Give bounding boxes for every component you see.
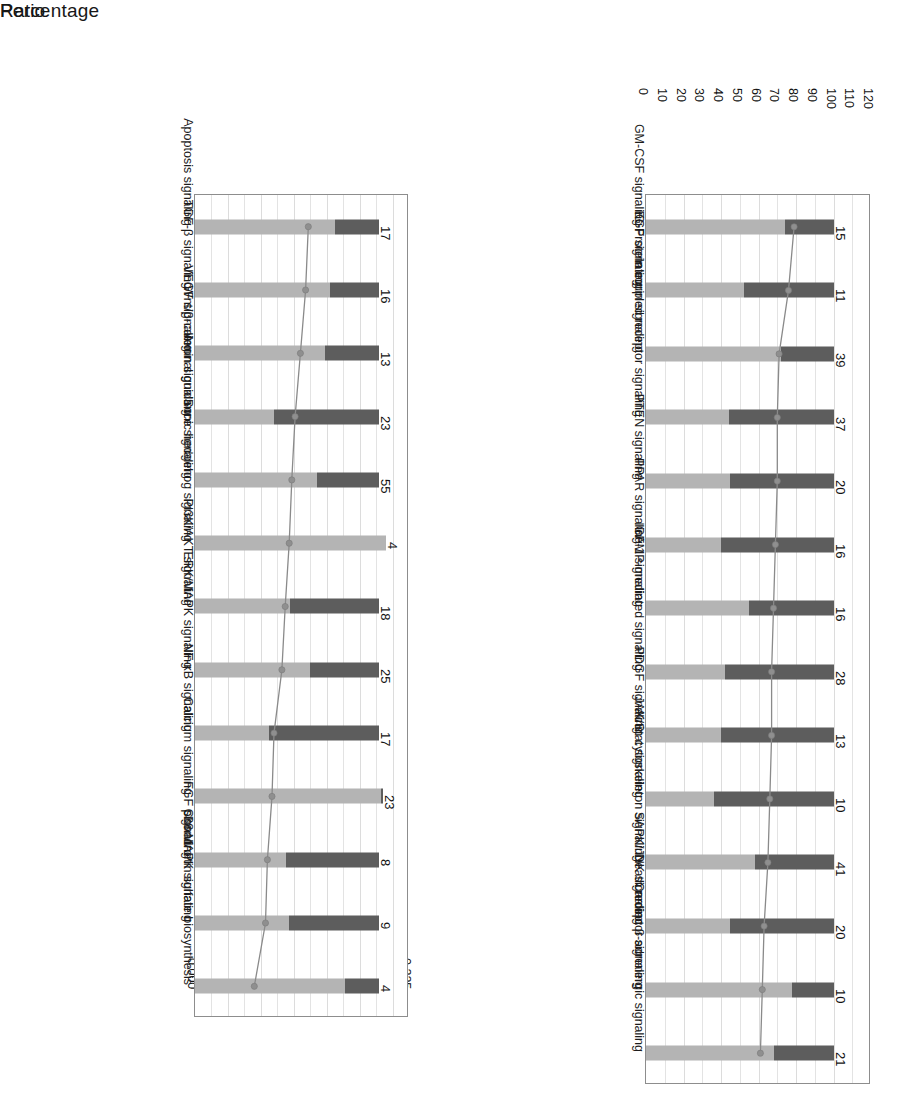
bar-count-label: 16 bbox=[832, 544, 847, 558]
category-label: G-Protein coupled receptor signaling bbox=[632, 214, 646, 417]
trend-point-marker bbox=[791, 224, 797, 230]
axis-tick-label: 70 bbox=[767, 88, 781, 102]
bar-count-label: 8 bbox=[378, 859, 393, 866]
trend-line bbox=[646, 195, 871, 1085]
axis-tick-label: 80 bbox=[786, 88, 800, 102]
axis-tick-label: 0 bbox=[636, 88, 650, 95]
axis-tick-label: 20 bbox=[674, 88, 688, 102]
trend-point-marker bbox=[769, 732, 775, 738]
bar-count-label: 13 bbox=[832, 734, 847, 748]
trend-point-marker bbox=[292, 414, 298, 420]
bar-count-label: 37 bbox=[832, 417, 847, 431]
trend-point-marker bbox=[269, 793, 275, 799]
trend-point-marker bbox=[271, 730, 277, 736]
bar-count-label: 13 bbox=[378, 352, 393, 366]
trend-point-marker bbox=[251, 983, 257, 989]
trend-point-marker bbox=[770, 605, 776, 611]
bar-count-label: 21 bbox=[832, 1052, 847, 1066]
trend-point-marker bbox=[767, 796, 773, 802]
axis-tick-label: 100 bbox=[824, 88, 838, 109]
trend-point-marker bbox=[282, 603, 288, 609]
bar-count-label: 17 bbox=[378, 226, 393, 240]
bar-count-label: 20 bbox=[832, 925, 847, 939]
axis-tick-label: 40 bbox=[711, 88, 725, 102]
axis-tick-label: 90 bbox=[805, 88, 819, 102]
trend-point-marker bbox=[774, 478, 780, 484]
trend-point-marker bbox=[264, 857, 270, 863]
trend-point-marker bbox=[305, 224, 311, 230]
trend-point-marker bbox=[303, 287, 309, 293]
trend-point-marker bbox=[286, 540, 292, 546]
trend-point-marker bbox=[774, 414, 780, 420]
trend-point-marker bbox=[289, 477, 295, 483]
bar-count-label: 23 bbox=[381, 795, 396, 809]
bar-count-label: 10 bbox=[832, 989, 847, 1003]
axis-tick-label: 10 bbox=[655, 88, 669, 102]
bar-count-label: 15 bbox=[832, 226, 847, 240]
axis-tick-label: 110 bbox=[842, 88, 856, 108]
axis-tick-label: 30 bbox=[692, 88, 706, 102]
figure-canvas: Percentage 0 120 01020304050607080901001… bbox=[0, 0, 903, 1119]
axis-tick-label: 60 bbox=[749, 88, 763, 102]
trend-point-marker bbox=[262, 920, 268, 926]
trend-point-marker bbox=[757, 1050, 763, 1056]
bar-count-label: 4 bbox=[384, 542, 399, 549]
bar-count-label: 11 bbox=[832, 289, 847, 303]
axis-tick-label: 50 bbox=[730, 88, 744, 102]
trend-point-marker bbox=[279, 667, 285, 673]
percentage-plot-area bbox=[645, 194, 870, 1084]
bar-count-label: 41 bbox=[832, 862, 847, 876]
bar-count-label: 16 bbox=[378, 289, 393, 303]
bar-count-label: 23 bbox=[378, 416, 393, 430]
bar-count-label: 18 bbox=[378, 606, 393, 620]
ratio-axis-title: Ratio bbox=[0, 0, 214, 22]
bar-count-label: 4 bbox=[378, 985, 393, 992]
trend-point-marker bbox=[765, 859, 771, 865]
trend-point-marker bbox=[759, 987, 765, 993]
trend-point-marker bbox=[297, 350, 303, 356]
bar-count-label: 39 bbox=[832, 353, 847, 367]
bar-count-label: 28 bbox=[832, 671, 847, 685]
trend-point-marker bbox=[776, 351, 782, 357]
bar-count-label: 16 bbox=[832, 607, 847, 621]
trend-point-marker bbox=[772, 542, 778, 548]
category-label: Chondroitin sulfate biosynthesis bbox=[181, 809, 195, 986]
trend-point-marker bbox=[761, 923, 767, 929]
bar-count-label: 20 bbox=[832, 480, 847, 494]
trend-point-marker bbox=[769, 669, 775, 675]
bar-count-label: 17 bbox=[378, 732, 393, 746]
category-label: Cardiac β-adrenergic signaling bbox=[632, 882, 646, 1052]
bar-count-label: 55 bbox=[378, 479, 393, 493]
axis-tick-label: 120 bbox=[861, 88, 875, 109]
ratio-plot-area bbox=[194, 194, 408, 1017]
bar-count-label: 10 bbox=[832, 798, 847, 812]
bar-count-label: 25 bbox=[378, 669, 393, 683]
trend-point-marker bbox=[785, 287, 791, 293]
bar-count-label: 9 bbox=[378, 922, 393, 929]
